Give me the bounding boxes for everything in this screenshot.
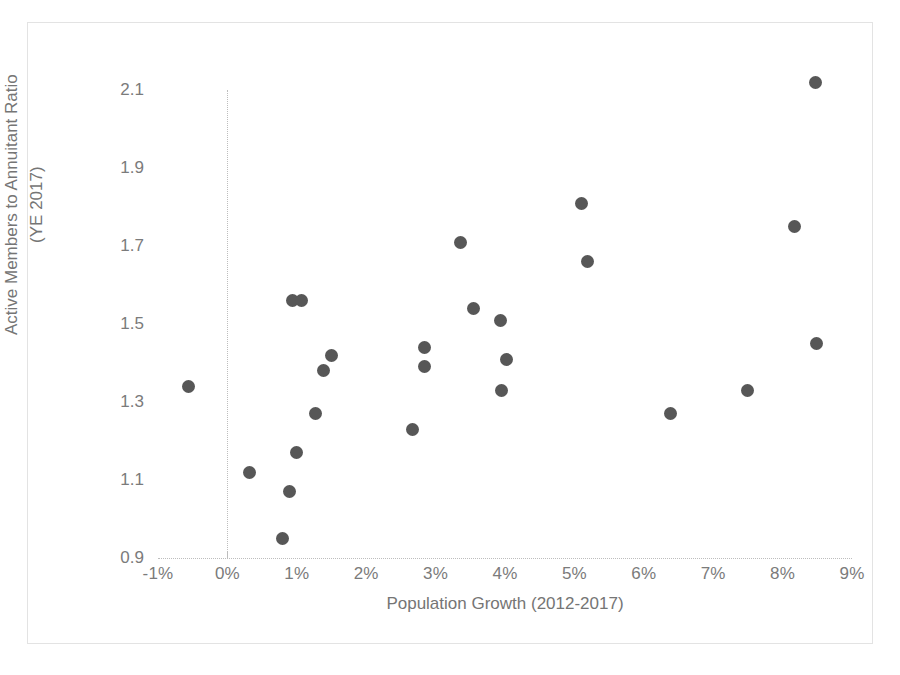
x-axis-title: Population Growth (2012-2017) (158, 594, 852, 614)
y-axis-title: Active Members to Annuitant Ratio (YE 20… (0, 40, 49, 370)
y-axis-line (227, 90, 228, 558)
y-tick-label: 1.7 (120, 236, 144, 256)
x-axis-origin-tick (227, 552, 228, 558)
scatter-point (810, 337, 823, 350)
scatter-point (495, 384, 508, 397)
scatter-point (317, 364, 330, 377)
scatter-point (454, 236, 467, 249)
y-tick-label: 1.3 (120, 392, 144, 412)
plot-area: -1%0%1%2%3%4%5%6%7%8%9% 0.91.11.31.51.71… (158, 90, 852, 558)
scatter-point (295, 294, 308, 307)
scatter-point (575, 197, 588, 210)
x-tick-label: 4% (493, 564, 518, 584)
scatter-point (243, 466, 256, 479)
scatter-point (276, 532, 289, 545)
scatter-point (494, 314, 507, 327)
scatter-point (418, 360, 431, 373)
scatter-point (406, 423, 419, 436)
x-tick-label: 1% (284, 564, 309, 584)
scatter-point (283, 485, 296, 498)
x-tick-label: 7% (701, 564, 726, 584)
x-tick-label: 0% (215, 564, 240, 584)
x-tick-label: 6% (631, 564, 656, 584)
x-tick-label: 2% (354, 564, 379, 584)
x-tick-label: 8% (770, 564, 795, 584)
scatter-point (309, 407, 322, 420)
chart-page: -1%0%1%2%3%4%5%6%7%8%9% 0.91.11.31.51.71… (0, 0, 900, 675)
y-tick-label: 1.9 (120, 158, 144, 178)
y-tick-label: 0.9 (120, 548, 144, 568)
scatter-point (664, 407, 677, 420)
x-tick-label: -1% (143, 564, 174, 584)
scatter-point (182, 380, 195, 393)
x-tick-label: 9% (840, 564, 865, 584)
y-axis-title-line1: Active Members to Annuitant Ratio (0, 40, 25, 370)
scatter-point (325, 349, 338, 362)
scatter-point (741, 384, 754, 397)
x-tick-label: 3% (423, 564, 448, 584)
y-axis-title-line2: (YE 2017) (25, 40, 50, 370)
scatter-point (418, 341, 431, 354)
x-axis-line (158, 558, 852, 559)
scatter-point (788, 220, 801, 233)
y-tick-label: 1.5 (120, 314, 144, 334)
scatter-point (467, 302, 480, 315)
x-tick-label: 5% (562, 564, 587, 584)
scatter-point (500, 353, 513, 366)
y-tick-label: 2.1 (120, 80, 144, 100)
scatter-point (290, 446, 303, 459)
y-tick-label: 1.1 (120, 470, 144, 490)
scatter-point (581, 255, 594, 268)
